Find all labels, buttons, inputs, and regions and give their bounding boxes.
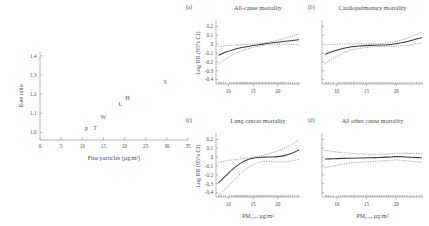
rug-marks <box>326 82 422 84</box>
scatter-point-P: P <box>85 126 89 132</box>
y-tick-label: 0.2 <box>207 136 214 142</box>
panel-cardiopulmonary-mortality: (b)Cardiopulmonary mortality101520 <box>306 0 429 113</box>
lower-ci-curve <box>218 44 299 64</box>
fit-curve <box>218 40 299 56</box>
y-tick-label: -0.2 <box>205 172 214 178</box>
scatter-y-tick-label: 1.3 <box>30 72 37 78</box>
scatter-point-L: L <box>119 101 123 107</box>
y-tick-label: 0.1 <box>207 145 214 151</box>
lower-ci-curve <box>325 160 422 168</box>
panel-title: Lung cancer mortality <box>231 117 287 124</box>
y-axis-title: Log RR (95% CI) <box>195 31 202 74</box>
scatter-y-tick-label: 1.0 <box>30 129 37 135</box>
x-tick-label: 10 <box>226 201 232 207</box>
panel-title: All-cause mortality <box>234 4 283 11</box>
panel-letter: (a) <box>186 4 192 11</box>
lung-cancer-mortality-svg: (c)Lung cancer mortality0.20.10-0.1-0.2-… <box>182 113 306 226</box>
y-tick-label: 0 <box>210 41 213 47</box>
scatter-x-tick-label: 25 <box>143 143 149 149</box>
upper-ci-curve <box>218 140 299 163</box>
scatter-x-tick-label: 0 <box>39 143 42 149</box>
y-axis-title: Log RR (95% CI) <box>195 144 202 187</box>
panel-letter: (b) <box>308 4 315 11</box>
scatter-plot-svg: 051015202530351.01.11.21.31.4PTWLHSFine … <box>0 0 200 226</box>
x-tick-label: 15 <box>250 201 256 207</box>
scatter-x-tick-label: 30 <box>164 143 170 149</box>
upper-ci-curve <box>325 150 422 154</box>
x-tick-label: 10 <box>334 88 340 94</box>
fit-curve <box>325 38 422 55</box>
x-axis-title: PM₂.₅, µg/m³ <box>357 213 389 219</box>
scatter-x-tick-label: 15 <box>101 143 107 149</box>
x-tick-label: 20 <box>275 201 281 207</box>
lower-ci-curve <box>218 159 299 195</box>
x-axis-title: PM₂.₅, µg/m³ <box>242 213 274 219</box>
x-tick-label: 10 <box>334 201 340 207</box>
scatter-point-W: W <box>101 114 107 120</box>
rug-marks <box>326 195 422 197</box>
curve-panel-grid: (a)All-cause mortality0.20.10-0.1-0.2-0.… <box>182 0 429 226</box>
x-tick-label: 20 <box>394 201 400 207</box>
x-tick-label: 15 <box>364 201 370 207</box>
scatter-y-tick-label: 1.4 <box>30 53 37 59</box>
x-tick-label: 15 <box>364 88 370 94</box>
y-tick-label: 0.1 <box>207 32 214 38</box>
scatter-point-H: H <box>125 95 130 101</box>
panel-all-cause-mortality: (a)All-cause mortality0.20.10-0.1-0.2-0.… <box>182 0 306 113</box>
y-tick-label: 0 <box>210 154 213 160</box>
y-tick-label: -0.2 <box>205 59 214 65</box>
fit-curve <box>218 150 299 183</box>
panel-letter: (d) <box>308 117 315 124</box>
panel-all-other-cause-mortality: (d)All other cause mortality101520PM₂.₅,… <box>306 113 429 226</box>
fit-curve <box>325 157 422 159</box>
scatter-x-tick-label: 5 <box>60 143 63 149</box>
all-cause-mortality-svg: (a)All-cause mortality0.20.10-0.1-0.2-0.… <box>182 0 306 113</box>
scatter-y-tick-label: 1.2 <box>30 91 37 97</box>
scatter-x-axis-title: Fine particles (µg/m³) <box>88 155 141 162</box>
y-tick-label: -0.1 <box>205 50 214 56</box>
panel-lung-cancer-mortality: (c)Lung cancer mortality0.20.10-0.1-0.2-… <box>182 113 306 226</box>
all-other-cause-mortality-svg: (d)All other cause mortality101520PM₂.₅,… <box>306 113 429 226</box>
y-tick-label: -0.4 <box>205 189 214 195</box>
y-tick-label: 0.2 <box>207 23 214 29</box>
rug-marks <box>219 195 299 197</box>
panel-title: All other cause mortality <box>342 117 405 124</box>
x-tick-label: 10 <box>226 88 232 94</box>
scatter-x-tick-label: 20 <box>122 143 128 149</box>
y-tick-label: -0.3 <box>205 68 214 74</box>
figure-container: 051015202530351.01.11.21.31.4PTWLHSFine … <box>0 0 429 226</box>
scatter-y-tick-label: 1.1 <box>30 110 37 116</box>
scatter-y-axis-title: Rate ratio <box>18 84 24 108</box>
y-tick-label: -0.1 <box>205 163 214 169</box>
scatter-point-T: T <box>93 125 97 131</box>
x-tick-label: 15 <box>250 88 256 94</box>
scatter-x-tick-label: 10 <box>80 143 86 149</box>
x-tick-label: 20 <box>275 88 281 94</box>
x-tick-label: 20 <box>394 88 400 94</box>
scatter-plot-panel: 051015202530351.01.11.21.31.4PTWLHSFine … <box>0 0 200 226</box>
lower-ci-curve <box>325 43 422 64</box>
panel-title: Cardiopulmonary mortality <box>339 4 408 11</box>
y-tick-label: -0.4 <box>205 76 214 82</box>
y-tick-label: -0.3 <box>205 181 214 187</box>
panel-letter: (c) <box>186 117 192 124</box>
scatter-point-S: S <box>163 79 166 85</box>
rug-marks <box>219 82 299 84</box>
cardiopulmonary-mortality-svg: (b)Cardiopulmonary mortality101520 <box>306 0 429 113</box>
upper-ci-curve <box>325 33 422 45</box>
